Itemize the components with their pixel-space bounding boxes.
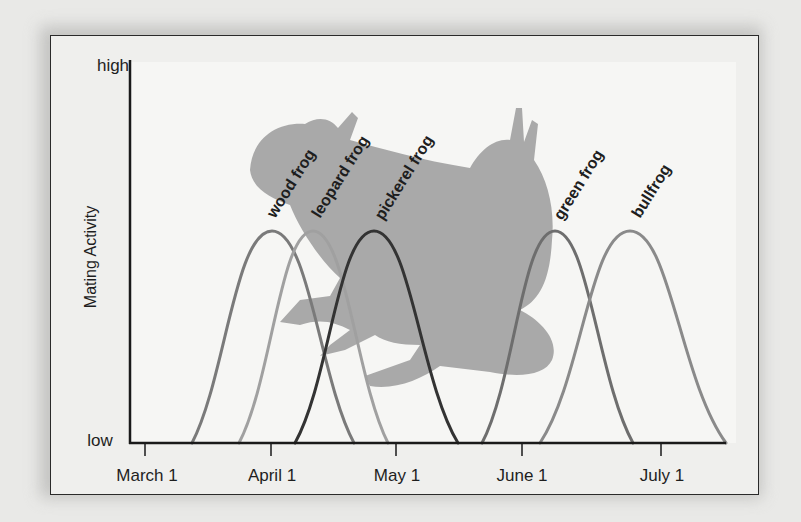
x-ticks: [145, 444, 661, 456]
tick-label-june: June 1: [496, 466, 547, 485]
tick-label-july: July 1: [640, 466, 684, 485]
tick-label-may: May 1: [374, 466, 420, 485]
y-low-label: low: [87, 431, 113, 450]
y-axis-title: Mating Activity: [82, 206, 99, 308]
tick-label-april: April 1: [248, 466, 296, 485]
mating-activity-chart: March 1 April 1 May 1 June 1 July 1 high…: [0, 0, 801, 522]
tick-label-march: March 1: [116, 466, 177, 485]
y-high-label: high: [97, 56, 129, 75]
